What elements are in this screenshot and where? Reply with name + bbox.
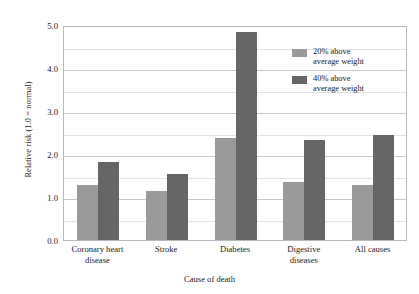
legend-item-label: 20% above average weight bbox=[313, 47, 364, 67]
bar-chart-figure: Relative risk (1.0 = normal) 0.01.02.03.… bbox=[0, 0, 419, 294]
bar bbox=[283, 182, 304, 240]
bar-group bbox=[133, 27, 202, 240]
bar bbox=[77, 185, 98, 240]
y-tick-label: 3.0 bbox=[28, 107, 58, 117]
legend: 20% above average weight 40% above avera… bbox=[292, 47, 400, 101]
x-tick-label: Digestive diseases bbox=[269, 244, 338, 265]
legend-swatch-icon bbox=[292, 49, 307, 57]
bar bbox=[98, 162, 119, 240]
bar bbox=[215, 138, 236, 240]
y-tick-label: 4.0 bbox=[28, 64, 58, 74]
bar bbox=[373, 135, 394, 240]
y-tick-label: 2.0 bbox=[28, 150, 58, 160]
bar bbox=[236, 32, 257, 240]
y-tick-label: 0.0 bbox=[28, 236, 58, 246]
bar bbox=[146, 191, 167, 240]
legend-item: 20% above average weight bbox=[292, 47, 400, 67]
bar-group bbox=[202, 27, 271, 240]
x-tick-label: Diabetes bbox=[201, 244, 270, 255]
y-tick-label: 5.0 bbox=[28, 21, 58, 31]
legend-item-label: 40% above average weight bbox=[313, 74, 364, 94]
x-tick-label: Coronary heart disease bbox=[63, 244, 132, 265]
y-tick-label: 1.0 bbox=[28, 193, 58, 203]
clipped-header-text bbox=[28, 0, 408, 5]
bar bbox=[304, 140, 325, 240]
bar-group bbox=[64, 27, 133, 240]
legend-swatch-icon bbox=[292, 76, 307, 84]
bar bbox=[352, 185, 373, 240]
x-tick-label: Stroke bbox=[132, 244, 201, 255]
legend-item: 40% above average weight bbox=[292, 74, 400, 94]
x-tick-label: All causes bbox=[338, 244, 407, 255]
x-axis-title: Cause of death bbox=[0, 274, 419, 284]
bar bbox=[167, 174, 188, 240]
